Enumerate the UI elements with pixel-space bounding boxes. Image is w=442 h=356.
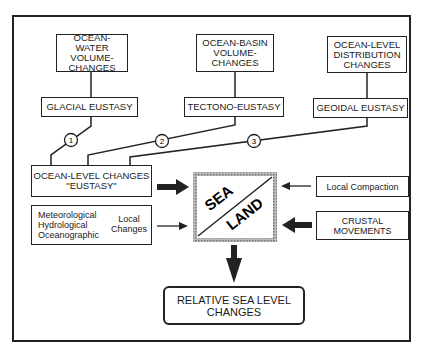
geoidal-eustasy-box: GEOIDAL EUSTASY: [313, 98, 408, 118]
thin-arrow-left: [281, 182, 311, 190]
marker-2-label: 2: [160, 137, 165, 146]
local-compaction-box: Local Compaction: [316, 176, 409, 197]
marker-1-label: 1: [69, 136, 74, 145]
local-factor: Meteorological: [38, 210, 99, 220]
thick-arrow-down: [226, 245, 242, 283]
local-factor: Oceanographic: [38, 230, 99, 240]
glacial-eustasy-box: GLACIAL EUSTASY: [41, 97, 138, 117]
ocean-basin-volume-box: OCEAN-BASIN VOLUME- CHANGES: [196, 34, 274, 72]
ocean-level-changes-box: OCEAN-LEVEL CHANGES "EUSTASY": [31, 165, 152, 197]
thick-arrow-left: [282, 217, 312, 233]
local-changes-box: Meteorological Hydrological Oceanographi…: [31, 205, 152, 245]
marker-1: 1: [65, 134, 78, 147]
marker-3: 3: [248, 135, 261, 148]
local-changes-label: Local Changes: [111, 214, 147, 234]
thin-arrow-right: [157, 222, 188, 230]
local-factor: Hydrological: [38, 220, 99, 230]
marker-2: 2: [156, 135, 169, 148]
crustal-movements-box: CRUSTAL MOVEMENTS: [316, 211, 409, 240]
local-factors-list: Meteorological Hydrological Oceanographi…: [38, 210, 99, 240]
ocean-level-distribution-box: OCEAN-LEVEL DISTRIBUTION CHANGES: [327, 36, 407, 73]
marker-3-label: 3: [252, 137, 257, 146]
relative-sea-level-box: RELATIVE SEA LEVEL CHANGES: [163, 286, 305, 325]
tectono-eustasy-box: TECTONO-EUSTASY: [184, 97, 284, 117]
thick-arrow-right: [157, 179, 189, 195]
ocean-level-line2: "EUSTASY": [66, 181, 116, 191]
ocean-water-volume-box: OCEAN-WATER VOLUME- CHANGES: [56, 34, 128, 72]
